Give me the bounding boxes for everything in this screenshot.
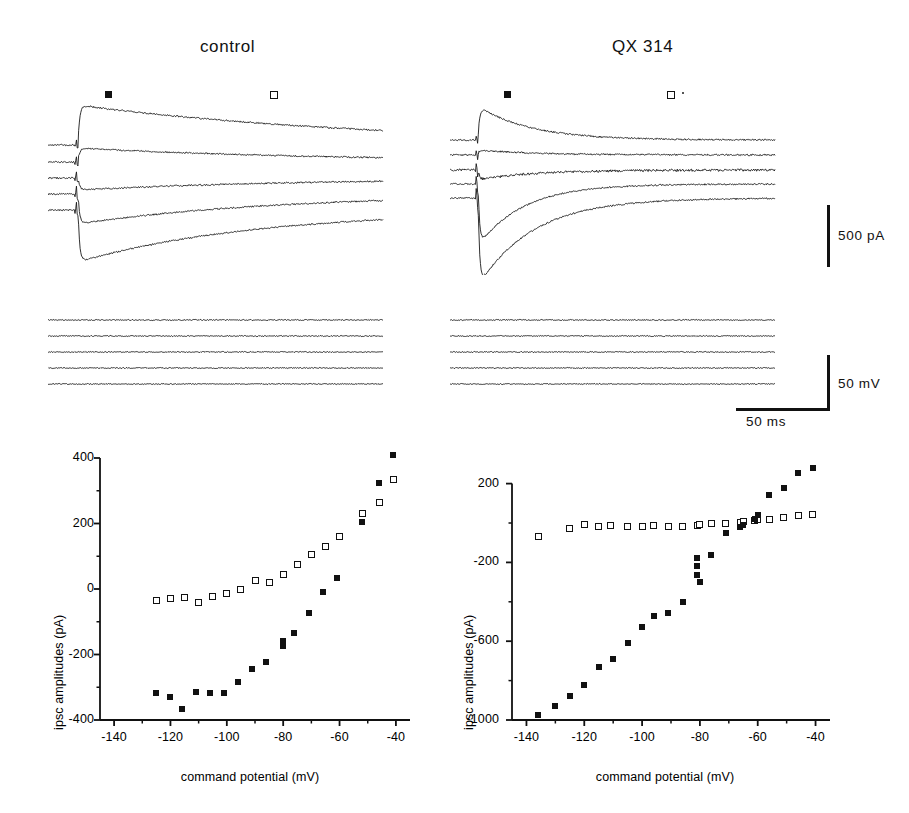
data-point-open xyxy=(308,551,315,558)
data-point-filled xyxy=(766,492,772,498)
data-point-open xyxy=(535,533,542,540)
data-point-filled xyxy=(651,613,657,619)
data-point-open xyxy=(280,571,287,578)
data-point-filled xyxy=(596,664,602,670)
x-tick-label: -100 xyxy=(202,730,252,744)
open-square-marker-qx314 xyxy=(667,91,675,99)
data-point-filled xyxy=(221,690,227,696)
chart-control-iv: ipsc amplitudes (pA) command potential (… xyxy=(40,440,440,800)
time-scalebar-label: 50 ms xyxy=(746,414,786,429)
data-point-filled xyxy=(680,599,686,605)
speck-dot xyxy=(682,92,684,94)
chart-qx314-iv: ipsc amplitudes (pA) command potential (… xyxy=(450,440,860,800)
data-point-open xyxy=(181,594,188,601)
data-point-open xyxy=(167,595,174,602)
voltage-trace xyxy=(48,351,383,352)
cut-off-header-text xyxy=(40,0,840,3)
data-point-open xyxy=(696,521,703,528)
data-point-filled xyxy=(334,575,340,581)
current-trace xyxy=(450,164,775,180)
data-point-open xyxy=(376,499,383,506)
data-point-filled xyxy=(781,485,787,491)
data-point-filled xyxy=(697,579,703,585)
data-point-filled xyxy=(708,552,714,558)
current-trace xyxy=(48,148,383,166)
data-point-filled xyxy=(153,690,159,696)
data-point-open xyxy=(665,523,672,530)
y-tick-label: 400 xyxy=(50,450,94,464)
data-point-filled xyxy=(249,666,255,672)
current-trace xyxy=(450,150,775,159)
chart-qx314-xlabel: command potential (mV) xyxy=(510,770,820,784)
data-point-open xyxy=(266,579,273,586)
current-trace xyxy=(450,188,775,275)
x-tick-label: -120 xyxy=(145,730,195,744)
voltage-trace xyxy=(450,367,775,368)
voltage-trace xyxy=(48,367,383,368)
y-tick-label: 200 xyxy=(50,516,94,530)
data-point-open xyxy=(708,520,715,527)
data-point-filled xyxy=(235,679,241,685)
voltage-trace xyxy=(48,383,383,384)
control-current-traces xyxy=(48,100,388,270)
y-tick-label: -600 xyxy=(449,633,499,647)
data-point-filled xyxy=(193,689,199,695)
data-point-filled xyxy=(179,706,185,712)
data-point-filled xyxy=(694,572,700,578)
data-point-open xyxy=(322,543,329,550)
data-point-open xyxy=(390,476,397,483)
voltage-trace xyxy=(450,383,775,384)
data-point-filled xyxy=(755,512,761,518)
data-point-open xyxy=(650,522,657,529)
x-tick-label: -140 xyxy=(89,730,139,744)
filled-square-marker-control xyxy=(105,91,112,98)
data-point-open xyxy=(722,520,729,527)
voltage-trace xyxy=(450,319,775,320)
data-point-filled xyxy=(320,589,326,595)
data-point-filled xyxy=(665,610,671,616)
data-point-filled xyxy=(306,610,312,616)
data-point-open xyxy=(607,522,614,529)
data-point-open xyxy=(195,599,202,606)
data-point-open xyxy=(153,597,160,604)
data-point-open xyxy=(566,525,573,532)
y-tick-label: -1000 xyxy=(449,712,499,726)
data-point-filled xyxy=(625,640,631,646)
data-point-open xyxy=(679,523,686,530)
data-point-filled xyxy=(207,690,213,696)
qx314-voltage-traces xyxy=(450,312,780,402)
open-square-marker-control xyxy=(270,91,278,99)
data-point-open xyxy=(581,521,588,528)
data-point-filled xyxy=(376,480,382,486)
panel-title-qx314: QX 314 xyxy=(612,37,673,57)
data-point-filled xyxy=(610,656,616,662)
y-tick-label: -200 xyxy=(50,647,94,661)
voltage-trace xyxy=(48,319,383,320)
x-tick-label: -120 xyxy=(559,730,609,744)
x-tick-label: -40 xyxy=(791,730,841,744)
data-point-filled xyxy=(390,452,396,458)
filled-square-marker-qx314 xyxy=(504,91,511,98)
data-point-open xyxy=(294,561,301,568)
y-tick-label: 200 xyxy=(449,476,499,490)
x-tick-label: -80 xyxy=(258,730,308,744)
voltage-trace xyxy=(450,335,775,336)
data-point-filled xyxy=(280,643,286,649)
panel-title-control: control xyxy=(200,37,255,57)
chart-qx314-plot xyxy=(450,440,860,770)
data-point-filled xyxy=(167,694,173,700)
chart-control-plot xyxy=(40,440,440,770)
y-tick-label: 0 xyxy=(50,581,94,595)
voltage-trace xyxy=(450,351,775,352)
current-scalebar-label: 500 pA xyxy=(838,228,885,243)
x-tick-label: -40 xyxy=(371,730,421,744)
data-point-filled xyxy=(567,693,573,699)
data-point-filled xyxy=(723,530,729,536)
data-point-filled xyxy=(359,519,365,525)
data-point-open xyxy=(595,523,602,530)
x-tick-label: -60 xyxy=(733,730,783,744)
data-point-open xyxy=(359,510,366,517)
current-trace xyxy=(450,176,775,237)
y-tick-label: -200 xyxy=(449,554,499,568)
qx314-current-traces xyxy=(450,100,780,275)
